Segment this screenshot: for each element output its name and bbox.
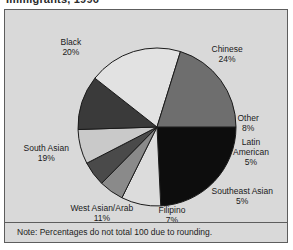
chart-title-clipped: Immigrants, 1996	[6, 0, 206, 6]
footnote: Note: Percentages do not total 100 due t…	[17, 227, 212, 237]
pie-label: Chinese24%	[212, 44, 243, 65]
pie-chart-area: Chinese24%Other8%LatinAmerican5%Southeas…	[5, 10, 287, 222]
pie-label: Other8%	[238, 113, 259, 134]
chart-frame: Chinese24%Other8%LatinAmerican5%Southeas…	[4, 9, 288, 243]
pie-label: Southeast Asian5%	[212, 186, 273, 207]
chart-page: Immigrants, 1996 Chinese24%Other8%LatinA…	[0, 0, 293, 250]
note-bar: Note: Percentages do not total 100 due t…	[5, 222, 287, 242]
pie-label: South Asian19%	[24, 143, 69, 164]
page-title: Immigrants, 1996	[6, 0, 206, 6]
pie-label: Black20%	[61, 37, 82, 58]
pie-label: Filipino7%	[159, 205, 186, 223]
pie-label: LatinAmerican5%	[233, 137, 269, 167]
pie-label: West Asian/Arab11%	[71, 203, 134, 223]
